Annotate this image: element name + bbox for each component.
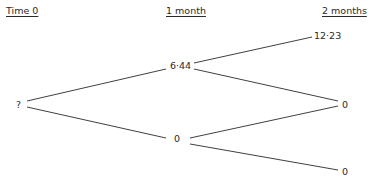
node-root: ? [16,99,21,111]
edge-up-uu [194,37,312,63]
edge-root-down [27,107,166,138]
edge-down-ud [190,106,338,138]
node-uu: 12·23 [314,30,341,42]
node-dd: 0 [342,166,348,178]
edge-root-up [27,69,166,101]
node-down: 0 [174,133,180,145]
node-up: 6·44 [170,60,191,72]
node-ud: 0 [342,99,348,111]
tree-edges [0,0,374,182]
edge-down-dd [190,144,338,170]
edge-up-ud [194,69,338,101]
